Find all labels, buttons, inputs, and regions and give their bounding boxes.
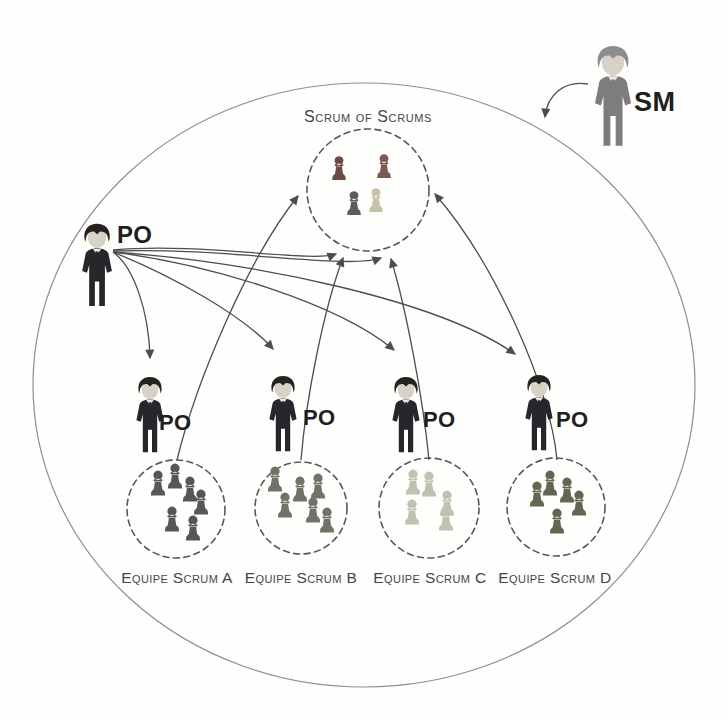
team-d-pawn	[530, 482, 544, 507]
po-c-label: PO	[423, 407, 455, 432]
team-b-pawn	[320, 508, 334, 533]
sos-pawn-3	[347, 191, 361, 215]
team-b-pawn	[278, 493, 292, 518]
po-figure-d	[525, 375, 552, 450]
team-c-pawn	[406, 470, 420, 495]
team-b-pawn	[293, 477, 307, 502]
sos-label: Scrum of Scrums	[304, 108, 432, 125]
team-a-pawn	[168, 464, 182, 489]
team-b-pawn	[306, 498, 320, 523]
po-b-label: PO	[303, 405, 335, 430]
team-a-pawns	[151, 464, 208, 541]
sos-pawn-1	[332, 156, 346, 180]
team-b-circle	[255, 462, 347, 554]
team-b-pawns	[268, 467, 334, 533]
team-a-pawn	[183, 477, 197, 502]
main-po-label: PO	[117, 221, 152, 248]
scrum-of-scrums-diagram: Scrum of Scrums SM PO PO PO PO PO Equipe…	[0, 0, 728, 720]
team-d-pawn	[560, 478, 574, 503]
team-b-label: Equipe Scrum B	[245, 569, 357, 586]
team-a-pawn	[151, 471, 165, 496]
scrum-of-scrums-circle	[307, 129, 429, 251]
sos-pawn-4	[369, 188, 383, 212]
team-d-pawns	[530, 471, 586, 534]
po-d-label: PO	[556, 407, 588, 432]
arrow-mainpo-to-po-d	[113, 252, 515, 354]
team-b-pawn	[311, 474, 325, 499]
diagram-canvas: Scrum of Scrums SM PO PO PO PO PO Equipe…	[0, 0, 728, 720]
sm-label: SM	[634, 87, 676, 117]
team-a-pawn	[165, 507, 179, 532]
po-figure-c	[392, 377, 419, 452]
team-a-pawn	[186, 516, 200, 541]
team-d-circle	[507, 458, 605, 556]
team-a-label: Equipe Scrum A	[121, 569, 233, 586]
arrow-mainpo-to-po-a	[113, 252, 150, 358]
arrow-sm-to-organization	[545, 83, 588, 117]
po-a-label: PO	[159, 410, 191, 435]
team-c-label: Equipe Scrum C	[373, 569, 486, 586]
team-a-pawn	[194, 490, 208, 515]
team-b-pawn	[268, 467, 282, 492]
team-d-label: Equipe Scrum D	[498, 569, 611, 586]
sm-figure	[595, 46, 631, 146]
team-c-pawn	[422, 472, 436, 497]
team-d-pawn	[550, 509, 564, 534]
organization-boundary-ellipse	[33, 83, 695, 687]
arrow-mainpo-to-po-c	[113, 252, 394, 350]
team-d-pawn	[543, 471, 557, 496]
po-figure-b	[269, 376, 296, 451]
team-c-pawns	[405, 470, 454, 531]
sos-pawns	[332, 154, 391, 215]
main-po-figure	[82, 224, 112, 306]
team-c-pawn	[405, 500, 419, 525]
sos-pawn-2	[377, 154, 391, 178]
team-d-pawn	[572, 491, 586, 516]
